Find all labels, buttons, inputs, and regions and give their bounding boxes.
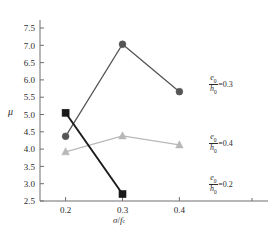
y-tick-label: 6.0 [24,75,36,85]
y-tick-label: 4.0 [24,144,36,154]
annotation-value: =0.2 [218,180,233,189]
data-point-marker [119,41,126,48]
chart-plot-area: 2.53.03.54.04.55.05.56.06.57.07.5 0.20.3… [0,0,277,242]
y-axis-title: μ [8,106,13,117]
axes [40,20,268,201]
annotation-value: =0.3 [218,80,233,89]
annotation-fraction: e0 h0 [209,74,218,96]
x-tick-label: 0.2 [60,205,71,215]
annotation-value: =0.4 [218,139,233,148]
x-axis-title: σ / f c [113,216,125,225]
x-axis-title-fraction: σ / f c [113,216,125,225]
y-tick-label: 4.5 [24,127,36,137]
y-tick-label: 3.5 [24,162,36,172]
data-series [62,41,183,198]
x-tick-label: 0.3 [117,205,129,215]
x-axis-title-denominator-sub: c [122,219,124,225]
series-e0-h0-0-4 [62,132,183,155]
data-point-marker [176,88,183,95]
y-tick-label: 7.5 [24,23,36,33]
series-line [66,113,123,194]
y-tick-label: 6.5 [24,58,36,68]
y-tick-label: 2.5 [24,196,36,206]
series-line [66,44,180,136]
y-tick-label: 5.5 [24,92,36,102]
y-tick-label: 7.0 [24,41,36,51]
data-point-marker [62,109,69,116]
y-axis-title-text: μ [8,106,13,117]
x-axis-ticks: 0.20.30.4 [60,197,252,215]
x-tick-label: 0.4 [174,205,186,215]
annotation-denominator: h0 [209,84,218,95]
annotation-denominator: h0 [209,143,218,154]
data-point-marker [119,132,127,139]
annotation-numerator: e0 [209,74,217,84]
annotation-numerator: e0 [209,133,217,143]
annotation-numerator: e0 [209,174,217,184]
y-tick-label: 5.0 [24,110,36,120]
series-e0-h0-0-3 [62,41,183,140]
series-annotation-e0h0-04: e0 h0 =0.4 [209,133,233,155]
data-point-marker [62,133,69,140]
chart-figure: 2.53.03.54.04.55.05.56.06.57.07.5 0.20.3… [0,0,277,242]
annotation-fraction: e0 h0 [209,174,218,196]
series-annotation-e0h0-02: e0 h0 =0.2 [209,174,233,196]
annotation-fraction: e0 h0 [209,133,218,155]
series-e0-h0-0-2 [62,109,126,197]
annotation-denominator: h0 [209,184,218,195]
y-tick-label: 3.0 [24,179,36,189]
series-annotation-e0h0-03: e0 h0 =0.3 [209,74,233,96]
y-axis-ticks: 2.53.03.54.04.55.05.56.06.57.07.5 [24,23,44,206]
data-point-marker [119,191,126,198]
